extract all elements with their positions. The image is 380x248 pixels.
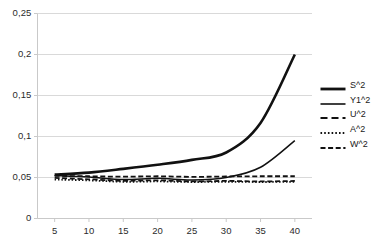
legend-label: U^2 bbox=[346, 109, 366, 119]
legend-swatch-icon bbox=[320, 109, 346, 119]
legend-item-a-2[interactable]: A^2 bbox=[320, 122, 380, 137]
legend-label: S^2 bbox=[346, 80, 365, 90]
chart-legend: S^2Y1^2U^2A^2W^2 bbox=[320, 78, 380, 151]
y-axis-label-0: 0 bbox=[0, 212, 32, 223]
legend-label: Y1^2 bbox=[346, 95, 370, 105]
legend-item-s-2[interactable]: S^2 bbox=[320, 78, 380, 93]
legend-swatch-icon bbox=[320, 139, 346, 149]
y-axis-label-1: 0,05 bbox=[0, 171, 32, 182]
y-axis-label-4: 0,2 bbox=[0, 48, 32, 59]
legend-item-u-2[interactable]: U^2 bbox=[320, 107, 380, 122]
gridlines-group bbox=[38, 14, 313, 219]
legend-swatch-icon bbox=[320, 80, 346, 90]
legend-item-y1-2[interactable]: Y1^2 bbox=[320, 93, 380, 108]
x-axis-label-6: 35 bbox=[246, 225, 276, 236]
x-axis-label-2: 15 bbox=[108, 225, 138, 236]
series-line-s-2 bbox=[55, 55, 295, 175]
y-axis-label-3: 0,15 bbox=[0, 89, 32, 100]
tick-marks-group bbox=[34, 14, 295, 223]
series-line-y1-2 bbox=[55, 141, 295, 180]
legend-item-w-2[interactable]: W^2 bbox=[320, 136, 380, 151]
legend-label: W^2 bbox=[346, 139, 368, 149]
axis-lines-group bbox=[38, 14, 313, 219]
x-axis-label-5: 30 bbox=[211, 225, 241, 236]
y-axis-label-5: 0,25 bbox=[0, 7, 32, 18]
chart-container: 00,050,10,150,20,25 510152025303540 S^2Y… bbox=[0, 0, 380, 248]
x-axis-label-4: 25 bbox=[177, 225, 207, 236]
x-axis-label-7: 40 bbox=[280, 225, 310, 236]
x-axis-label-0: 5 bbox=[40, 225, 70, 236]
legend-swatch-icon bbox=[320, 95, 346, 105]
legend-label: A^2 bbox=[346, 124, 365, 134]
x-axis-label-1: 10 bbox=[74, 225, 104, 236]
x-axis-label-3: 20 bbox=[143, 225, 173, 236]
y-axis-label-2: 0,1 bbox=[0, 130, 32, 141]
legend-swatch-icon bbox=[320, 124, 346, 134]
data-series-group bbox=[55, 55, 295, 183]
